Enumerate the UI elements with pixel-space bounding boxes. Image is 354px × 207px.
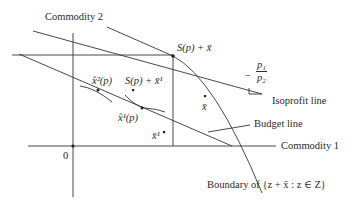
slope-sign: − (245, 71, 251, 82)
x-bar-marker (204, 95, 206, 97)
x-hat-1-label: x̂¹(p) (118, 113, 138, 124)
slope-denominator: p₂ (256, 72, 267, 84)
indifference-curve-2 (80, 86, 112, 102)
origin-label: 0 (63, 151, 68, 162)
production-point-label: S(p) + x̄ (177, 43, 212, 54)
isoprofit-label: Isoprofit line (272, 96, 327, 107)
production-point-1-marker (132, 89, 134, 91)
y-axis-label: Commodity 2 (45, 12, 103, 23)
budget-pointer (208, 125, 250, 132)
origin-point (71, 144, 74, 147)
production-point (171, 54, 175, 58)
slope-fraction: p₁ p₂ (256, 59, 267, 84)
budget-line (19, 54, 232, 146)
x-hat-1-point (141, 107, 144, 110)
x-bar-1-marker (163, 131, 165, 133)
slope-numerator: p₁ (256, 59, 267, 72)
boundary-label: Boundary of {z + x̄ : z ∈ Z} (207, 180, 326, 191)
x-axis-label: Commodity 1 (281, 141, 339, 152)
x-hat-2-point (97, 89, 100, 92)
x-bar-label: x̄ (202, 102, 207, 113)
production-point-1-label: S(p) + x̄¹ (125, 76, 163, 87)
budget-label: Budget line (254, 119, 303, 130)
indifference-curve-1 (125, 95, 165, 112)
x-hat-2-label: x̂²(p) (92, 76, 112, 87)
x-bar-1-label: x̄¹ (152, 131, 160, 142)
